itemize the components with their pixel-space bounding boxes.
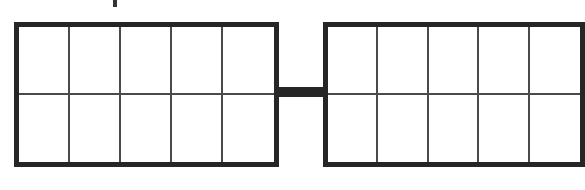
ten-frame-right: [323, 22, 585, 167]
frame-cell: [479, 27, 529, 95]
frame-cell: [172, 27, 223, 95]
frame-cell: [479, 95, 529, 163]
ten-frame-left: [14, 22, 279, 167]
frame-cell: [121, 95, 172, 163]
frame-cell: [429, 27, 479, 95]
frame-cell: [530, 27, 580, 95]
frame-cell: [530, 95, 580, 163]
cutoff-title-fragment: [113, 0, 117, 7]
frame-cell: [328, 27, 378, 95]
frame-cell: [19, 95, 70, 163]
frame-cell: [328, 95, 378, 163]
frame-connector-bar: [278, 87, 324, 97]
frame-cell: [429, 95, 479, 163]
frame-cell: [70, 27, 121, 95]
frame-cell: [172, 95, 223, 163]
frame-cell: [19, 27, 70, 95]
frame-cell: [70, 95, 121, 163]
frame-cell: [378, 27, 428, 95]
frame-cell: [223, 27, 274, 95]
frame-cell: [378, 95, 428, 163]
frame-cell: [223, 95, 274, 163]
frame-cell: [121, 27, 172, 95]
